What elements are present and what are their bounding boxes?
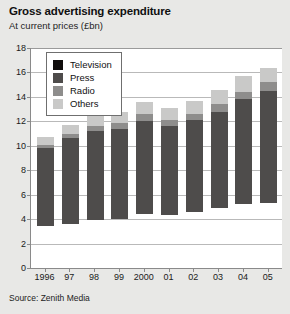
bar-segment-press (111, 129, 128, 219)
y-axis-tick-label: 2 (0, 239, 26, 249)
chart-legend: Television Press Radio Others (46, 52, 122, 116)
bar-segment-others (235, 76, 252, 92)
bar-stack (62, 125, 79, 268)
x-axis-tick-label: 05 (248, 272, 288, 282)
x-axis-tick-mark (268, 269, 269, 272)
y-axis-tick-mark (27, 244, 30, 245)
legend-label-television: Television (70, 59, 112, 71)
x-axis-tick-mark (45, 269, 46, 272)
y-axis-tick-label: 14 (0, 92, 26, 102)
bar-stack (186, 101, 203, 268)
bar-segment-television (136, 214, 153, 268)
legend-item: Others (53, 97, 112, 110)
x-axis-tick-mark (243, 269, 244, 272)
bar-segment-television (235, 204, 252, 268)
chart-title: Gross advertising expenditure (9, 5, 171, 17)
bar-stack (37, 137, 54, 268)
x-axis-tick-mark (69, 269, 70, 272)
bar-segment-press (136, 121, 153, 214)
y-axis-tick-label: 12 (0, 116, 26, 126)
source-note: Source: Zenith Media (9, 293, 90, 303)
bar-segment-television (161, 215, 178, 268)
legend-swatch-radio-icon (53, 86, 63, 96)
bar-segment-others (87, 116, 104, 126)
bar-segment-television (211, 208, 228, 268)
x-axis-tick-mark (169, 269, 170, 272)
y-axis-tick-mark (27, 97, 30, 98)
x-axis-tick-mark (94, 269, 95, 272)
chart-subtitle: At current prices (£bn) (9, 20, 103, 31)
bar-segment-press (211, 112, 228, 209)
y-axis-tick-mark (27, 121, 30, 122)
y-axis-tick-label: 4 (0, 214, 26, 224)
x-axis-tick-mark (218, 269, 219, 272)
y-axis-tick-label: 6 (0, 190, 26, 200)
bar-segment-television (62, 224, 79, 268)
bar-segment-others (186, 101, 203, 114)
bar-segment-television (37, 226, 54, 268)
y-axis-tick-label: 8 (0, 165, 26, 175)
y-axis-tick-label: 16 (0, 67, 26, 77)
legend-item: Radio (53, 84, 112, 97)
legend-swatch-press-icon (53, 73, 63, 83)
bar-stack (260, 68, 277, 268)
bar-segment-others (161, 108, 178, 120)
bar-segment-television (87, 220, 104, 268)
bar-stack (111, 112, 128, 268)
y-axis-tick-mark (27, 72, 30, 73)
bar-segment-television (260, 203, 277, 268)
bar-segment-press (235, 99, 252, 204)
bar-stack (136, 102, 153, 268)
bar-segment-others (37, 137, 54, 144)
y-axis-tick-mark (27, 170, 30, 171)
legend-swatch-others-icon (53, 99, 63, 109)
bar-stack (161, 108, 178, 268)
legend-item: Television (53, 58, 112, 71)
legend-label-press: Press (70, 72, 94, 84)
y-axis-tick-label: 0 (0, 263, 26, 273)
bar-segment-others (62, 125, 79, 134)
y-axis-tick-mark (27, 48, 30, 49)
bar-stack (87, 116, 104, 268)
bar-segment-others (260, 68, 277, 83)
x-axis-tick-mark (193, 269, 194, 272)
y-axis-tick-mark (27, 268, 30, 269)
bar-stack (211, 90, 228, 268)
y-axis-tick-label: 10 (0, 141, 26, 151)
bar-segment-radio (260, 82, 277, 91)
bar-segment-radio (211, 104, 228, 111)
y-axis-tick-mark (27, 219, 30, 220)
x-axis-tick-mark (144, 269, 145, 272)
bar-segment-radio (136, 114, 153, 121)
x-axis-tick-mark (119, 269, 120, 272)
bar-segment-others (211, 90, 228, 105)
bar-segment-press (37, 148, 54, 226)
bar-segment-television (111, 219, 128, 268)
legend-item: Press (53, 71, 112, 84)
bar-segment-press (87, 131, 104, 220)
bar-segment-press (62, 138, 79, 224)
bar-segment-press (186, 120, 203, 212)
y-axis-tick-mark (27, 146, 30, 147)
bar-segment-television (186, 212, 203, 268)
legend-swatch-television-icon (53, 60, 63, 70)
y-axis-tick-label: 18 (0, 43, 26, 53)
y-axis-tick-mark (27, 195, 30, 196)
bar-segment-others (136, 102, 153, 114)
bar-segment-radio (235, 92, 252, 99)
bar-segment-press (260, 91, 277, 203)
chart-figure: Gross advertising expenditure At current… (0, 0, 290, 314)
legend-label-radio: Radio (70, 85, 95, 97)
bar-segment-press (161, 126, 178, 215)
bar-stack (235, 76, 252, 268)
legend-label-others: Others (70, 98, 99, 110)
